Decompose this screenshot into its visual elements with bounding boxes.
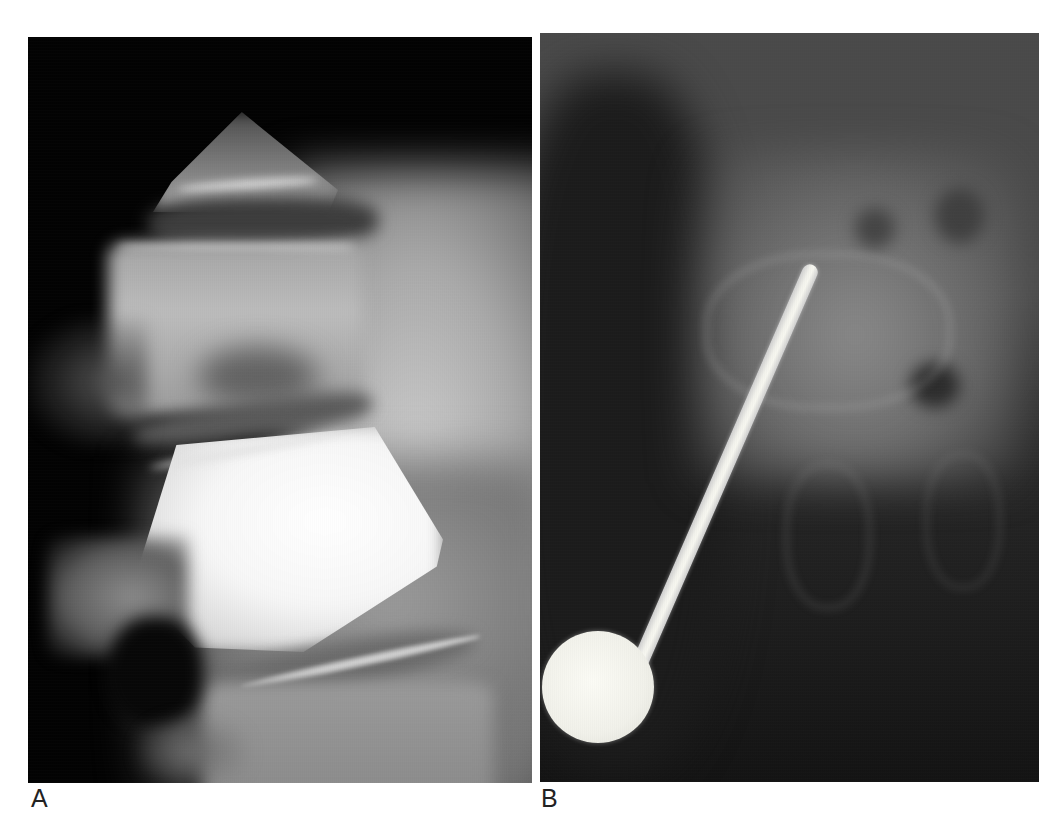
pointer-rod xyxy=(633,262,821,666)
posterior-elements-upper xyxy=(28,317,148,447)
panel-label-a: A xyxy=(31,786,48,811)
pedicle-right xyxy=(935,188,985,243)
endplate-2-top xyxy=(118,244,353,250)
ball-marker xyxy=(542,631,654,743)
vertebral-column-glow xyxy=(690,153,1020,483)
vertebra-2-texture xyxy=(198,347,318,407)
disc-space-2 xyxy=(132,385,375,453)
disc-space-3 xyxy=(206,619,480,710)
posterior-elements-lower xyxy=(138,717,248,783)
soft-tissue-lower xyxy=(138,457,532,783)
pedicle-left xyxy=(855,208,895,248)
left-dark-region xyxy=(540,73,730,773)
background-tone xyxy=(540,33,1039,782)
lower-foramen xyxy=(910,363,960,408)
bone-outline-2 xyxy=(785,463,871,609)
endplate-sclerotic-top xyxy=(149,430,347,472)
bone-outline-3 xyxy=(925,453,1001,589)
bone-outline-1 xyxy=(705,253,951,409)
neural-foramen xyxy=(108,617,203,727)
radiograph-panel-b xyxy=(540,33,1039,782)
endplate-lower xyxy=(240,632,482,692)
endplate-top xyxy=(178,175,318,195)
vertebra-sclerotic xyxy=(133,427,443,652)
film-grain xyxy=(540,33,1039,782)
vertebra-lower xyxy=(203,682,493,783)
soft-tissue-shadow xyxy=(288,167,532,783)
disc-space-1 xyxy=(148,195,379,249)
vertebra-2 xyxy=(108,242,363,417)
radiograph-panel-a xyxy=(28,37,532,783)
film-grain xyxy=(28,37,532,783)
panel-label-b: B xyxy=(541,786,558,811)
posterior-elements xyxy=(48,537,188,657)
vertebra-top xyxy=(153,112,338,212)
